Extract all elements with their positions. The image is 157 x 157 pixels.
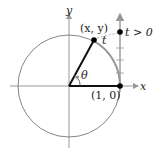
point-xy	[91, 37, 97, 43]
theta-arc	[75, 76, 80, 86]
y-axis-label: y	[65, 4, 73, 17]
x-axis-label: x	[140, 80, 147, 93]
t-label: t	[102, 34, 107, 47]
point-1-0	[117, 83, 123, 89]
unit-circle-diagram: y x (x, y) t t > 0 θ (1, 0)	[0, 0, 157, 157]
point-1-0-label: (1, 0)	[91, 89, 121, 102]
theta-label: θ	[81, 69, 88, 82]
point-t	[117, 29, 123, 35]
t-positive-label: t > 0	[125, 26, 153, 39]
